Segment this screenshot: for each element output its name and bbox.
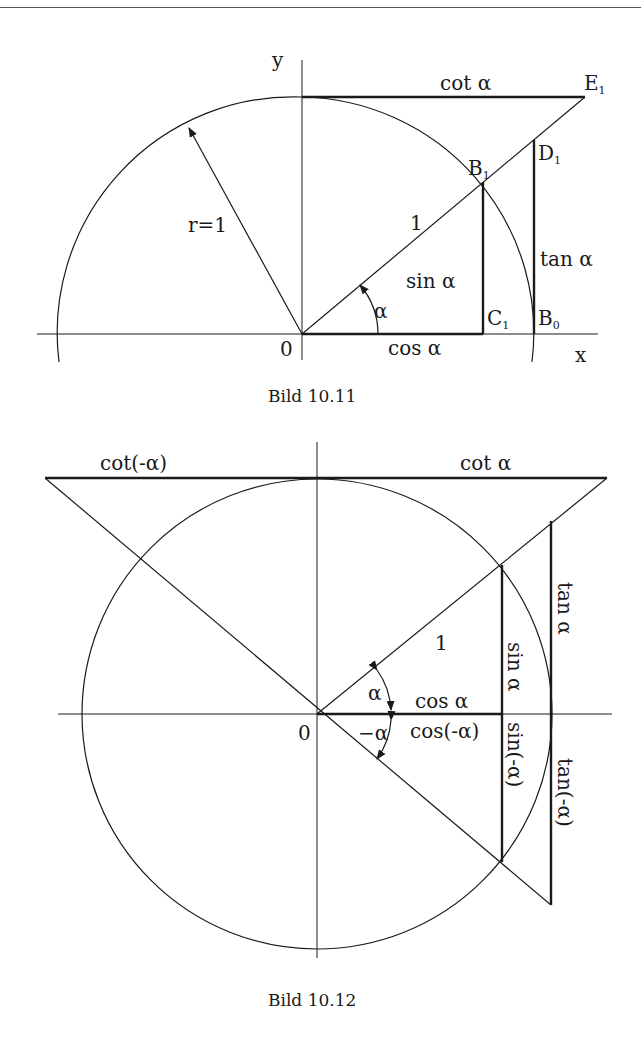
origin-label: 0: [280, 337, 293, 361]
angle-arc-negative: [377, 720, 391, 759]
cos-label: cos α: [388, 336, 441, 360]
sin-label: sin α: [406, 269, 455, 293]
origin-label: 0: [298, 721, 311, 745]
tan-neg-label: tan(-α): [553, 758, 577, 827]
point-C1-label: C1: [487, 306, 509, 332]
point-B0-label: B0: [538, 306, 560, 332]
sin-label: sin α: [503, 642, 527, 691]
cos-neg-label: cos(-α): [410, 719, 479, 743]
point-E1-label: E1: [584, 71, 606, 97]
unit-circle: [82, 479, 552, 949]
cot-label: cot α: [460, 451, 511, 475]
point-D1-label: D1: [538, 141, 561, 167]
hypotenuse-label: 1: [435, 631, 448, 655]
cot-label: cot α: [440, 71, 491, 95]
tan-label: tan α: [553, 582, 577, 635]
angle-ray-positive: [317, 478, 607, 714]
angle-arc-positive: [377, 670, 391, 710]
figure-unit-circle-first-quadrant: y x 0 r=1 1 α cot α sin α cos α tan α E1…: [0, 0, 641, 440]
figure-caption-10-12: Bild 10.12: [268, 990, 356, 1010]
sin-neg-label: sin(-α): [503, 722, 527, 787]
cot-neg-label: cot(-α): [100, 451, 167, 475]
radius-label: r=1: [188, 213, 227, 237]
angle-ray: [302, 97, 585, 334]
angle-ray-negative: [45, 478, 551, 905]
cos-label: cos α: [415, 689, 468, 713]
hypotenuse-label: 1: [410, 211, 423, 235]
figure-caption-10-11: Bild 10.11: [268, 386, 356, 406]
tan-label: tan α: [540, 247, 593, 271]
angle-neg-label: −α: [358, 721, 388, 745]
angle-label: α: [374, 299, 388, 323]
x-axis-label: x: [575, 343, 587, 367]
point-B1-label: B1: [468, 156, 490, 182]
y-axis-label: y: [271, 48, 284, 72]
angle-label: α: [368, 681, 382, 705]
